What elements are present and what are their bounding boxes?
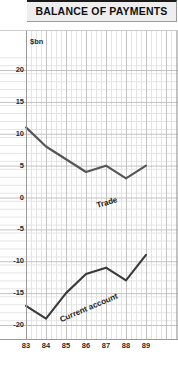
page-title: BALANCE OF PAYMENTS (35, 6, 167, 17)
x-tick-label: 89 (142, 342, 150, 350)
chart-title-bar: BALANCE OF PAYMENTS (27, 0, 177, 22)
x-tick-label: 87 (102, 342, 110, 350)
x-tick-label: 86 (82, 342, 90, 350)
y-axis-unit-label: $bn (30, 38, 43, 46)
balance-of-payments-figure: BALANCE OF PAYMENTS (0, 0, 178, 374)
y-tick-label: 20 (16, 66, 24, 74)
x-axis-labels: 83848586878889 (0, 340, 178, 358)
y-tick-label: -15 (13, 289, 24, 297)
y-tick-label: -5 (17, 226, 24, 234)
y-tick-label: 15 (16, 98, 24, 106)
x-tick-label: 84 (42, 342, 50, 350)
x-tick-label: 88 (122, 342, 130, 350)
y-tick-label: 0 (20, 194, 24, 202)
x-tick-label: 83 (22, 342, 30, 350)
y-tick-label: -10 (13, 258, 24, 266)
y-axis-labels: 20151050-5-10-15-20 (0, 30, 27, 340)
y-tick-label: -20 (13, 321, 24, 329)
y-tick-label: 5 (20, 162, 24, 170)
y-tick-label: 10 (16, 130, 24, 138)
x-tick-label: 85 (62, 342, 70, 350)
